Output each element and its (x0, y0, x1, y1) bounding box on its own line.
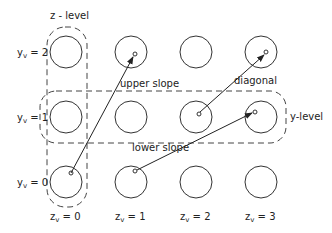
node-y0-z1 (115, 166, 147, 198)
y-level-group (40, 91, 286, 143)
node-y0-z2 (180, 166, 212, 198)
upper-slope-label: upper slope (120, 79, 179, 89)
col-label-z1: zv = 1 (115, 212, 146, 224)
node-y2-z1 (115, 36, 147, 68)
col-label-z3: zv = 3 (245, 212, 276, 224)
lower-slope-label: lower slope (132, 143, 189, 153)
node-y0-z0 (50, 166, 82, 198)
z-level-group (47, 27, 87, 207)
node-y1-z1 (115, 101, 147, 133)
node-y0-z3 (245, 166, 277, 198)
row-label-y1: yv = 1 (17, 113, 48, 125)
row-label-y0: yv = 0 (17, 178, 48, 190)
col-label-z2: zv = 2 (180, 212, 211, 224)
node-y2-z0 (50, 36, 82, 68)
diagram-canvas (0, 0, 332, 233)
node-y2-z3 (245, 36, 277, 68)
y-level-label: y-level (290, 112, 323, 122)
col-label-z0: zv = 0 (50, 212, 81, 224)
node-y1-z0 (50, 101, 82, 133)
z-level-label: z - level (50, 11, 89, 21)
upper-slope-edge (71, 57, 133, 173)
node-y2-z2 (180, 36, 212, 68)
node-y1-z3 (245, 101, 277, 133)
row-label-y2: yv = 2 (17, 48, 48, 60)
diagonal-label: diagonal (234, 76, 277, 86)
